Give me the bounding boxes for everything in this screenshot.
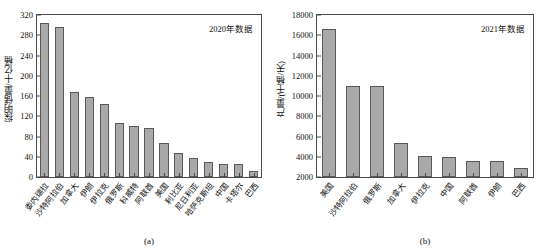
panel-a-x-tick-mark [194, 173, 195, 177]
panel-a-x-tick-mark [104, 173, 105, 177]
panel-a: 探明储量/十亿桶 2020年数据 04080120160200240280320… [0, 0, 272, 250]
panel-a-bar [70, 92, 79, 177]
panel-b-y-tick-label: 18000 [292, 10, 317, 20]
panel-b-plot-area: 2021年数据 20004000600080001000012000140001… [316, 14, 534, 178]
panel-b-y-tick-mark [317, 35, 321, 36]
panel-b-y-tick-label: 6000 [296, 132, 317, 142]
panel-a-y-tick-mark [37, 136, 41, 137]
panel-a-y-tick-mark [37, 156, 41, 157]
panel-b-x-tick-mark [449, 173, 450, 177]
panel-a-y-tick-label: 0 [29, 172, 37, 182]
panel-b-y-tick-mark [317, 116, 321, 117]
panel-b-x-tick-label: 美国 [319, 182, 335, 200]
panel-b-x-tick-mark [329, 173, 330, 177]
panel-b-x-tick-mark [473, 173, 474, 177]
panel-a-x-tick-mark [134, 173, 135, 177]
panel-a-x-tick-mark [254, 173, 255, 177]
panel-a-x-tick-mark [74, 173, 75, 177]
panel-a-y-tick-label: 40 [25, 152, 38, 162]
panel-b-y-tick-label: 8000 [296, 111, 317, 121]
panel-a-y-tick-label: 80 [25, 132, 38, 142]
panel-b-y-tick-mark [317, 15, 321, 16]
panel-a-x-tick-label: 巴西 [244, 182, 260, 200]
panel-a-bars [37, 15, 261, 177]
panel-b-bars [317, 15, 533, 177]
panel-a-y-tick-label: 240 [20, 51, 37, 61]
panel-a-x-tick-mark [59, 173, 60, 177]
panel-b-y-tick-label: 4000 [296, 152, 317, 162]
panel-a-x-tick-mark [44, 173, 45, 177]
panel-b-y-tick-label: 2000 [296, 172, 317, 182]
panel-a-x-tick-mark [224, 173, 225, 177]
panel-a-y-tick-mark [37, 96, 41, 97]
panel-a-bar [55, 27, 64, 177]
panel-b-x-tick-label: 伊拉克 [410, 182, 431, 206]
two-panel-bar-figure: 探明储量/十亿桶 2020年数据 04080120160200240280320… [0, 0, 545, 250]
panel-a-y-tick-label: 160 [20, 91, 37, 101]
panel-b-x-tick-label: 加拿大 [386, 182, 407, 206]
panel-b-y-axis-title: 产量/(千桶/天) [272, 0, 288, 178]
panel-b-x-tick-mark [521, 173, 522, 177]
panel-a-subcaption: (a) [36, 236, 262, 246]
panel-a-y-tick-mark [37, 55, 41, 56]
panel-b-x-tick-mark [353, 173, 354, 177]
panel-a-x-tick-mark [179, 173, 180, 177]
panel-b-y-tick-mark [317, 96, 321, 97]
panel-b-y-tick-label: 14000 [292, 51, 317, 61]
panel-b-bar [346, 86, 361, 177]
panel-a-y-tick-mark [37, 15, 41, 16]
panel-a-bar [129, 126, 138, 177]
panel-a-y-tick-label: 280 [20, 30, 37, 40]
panel-b-y-tick-label: 12000 [292, 71, 317, 81]
panel-a-x-tick-mark [119, 173, 120, 177]
panel-b-y-tick-mark [317, 75, 321, 76]
panel-b-x-tick-mark [401, 173, 402, 177]
panel-b-x-tick-mark [377, 173, 378, 177]
panel-b-x-tick-label: 俄罗斯 [362, 182, 383, 206]
panel-a-y-tick-label: 320 [20, 10, 37, 20]
panel-a-y-tick-label: 200 [20, 71, 37, 81]
panel-a-y-tick-mark [37, 35, 41, 36]
panel-b-y-tick-mark [317, 55, 321, 56]
panel-a-x-tick-mark [89, 173, 90, 177]
panel-b-y-tick-mark [317, 156, 321, 157]
panel-a-y-tick-mark [37, 116, 41, 117]
panel-a-bar [144, 128, 153, 177]
panel-a-x-tick-mark [239, 173, 240, 177]
panel-a-y-tick-mark [37, 75, 41, 76]
panel-a-x-tick-mark [149, 173, 150, 177]
panel-a-bar [85, 97, 94, 177]
panel-b-x-tick-mark [497, 173, 498, 177]
panel-b: 产量/(千桶/天) 2021年数据 2000400060008000100001… [272, 0, 544, 250]
panel-b-y-tick-label: 16000 [292, 30, 317, 40]
panel-b-subcaption: (b) [316, 236, 534, 246]
panel-b-x-tick-label: 伊朗 [487, 182, 503, 200]
panel-a-bar [159, 143, 168, 177]
panel-a-bar [40, 23, 49, 177]
panel-b-bar [394, 143, 409, 177]
panel-a-bar [100, 104, 109, 177]
panel-b-x-tick-label: 阿联酋 [458, 182, 479, 206]
panel-b-y-tick-label: 10000 [292, 91, 317, 101]
panel-b-x-tick-label: 中国 [439, 182, 455, 200]
panel-b-x-tick-label: 巴西 [511, 182, 527, 200]
panel-b-y-tick-mark [317, 177, 321, 178]
panel-b-x-tick-mark [425, 173, 426, 177]
panel-a-y-tick-mark [37, 177, 41, 178]
panel-a-plot-area: 2020年数据 04080120160200240280320委内瑞拉沙特阿拉伯… [36, 14, 262, 178]
panel-b-bar [322, 29, 337, 177]
panel-a-x-tick-mark [164, 173, 165, 177]
panel-a-y-tick-label: 120 [20, 111, 37, 121]
panel-b-y-tick-mark [317, 136, 321, 137]
panel-a-bar [115, 123, 124, 177]
panel-b-bar [370, 86, 385, 177]
panel-a-x-tick-mark [209, 173, 210, 177]
panel-a-y-axis-title: 探明储量/十亿桶 [0, 0, 16, 178]
